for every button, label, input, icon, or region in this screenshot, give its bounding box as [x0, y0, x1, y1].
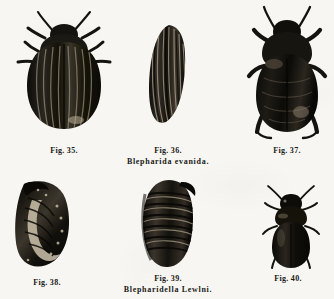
caption-fig-36: Fig. 36. — [128, 146, 208, 157]
tarsi-group — [257, 132, 317, 138]
caption-fig-35: Fig. 35. — [14, 146, 114, 157]
adult-beetle-dorsal-illustration — [14, 4, 114, 136]
larva-illustration — [10, 176, 88, 272]
adult-beetle-ventral-illustration — [244, 2, 330, 142]
illustration-plate: Fig. 35. — [0, 0, 334, 299]
pupa-illustration — [133, 176, 205, 272]
pronotum-highlight — [278, 214, 288, 219]
figure-fig-36 — [138, 22, 198, 130]
caption-fig-39: Fig. 39. — [128, 274, 208, 285]
caption-fig-40: Fig. 40. — [248, 274, 328, 285]
compound-eye — [283, 199, 286, 202]
figure-fig-40 — [258, 180, 324, 272]
thorax-highlight — [265, 59, 283, 69]
caption-fig-37: Fig. 37. — [247, 146, 327, 157]
beetle-elytron-illustration — [138, 22, 198, 130]
figure-fig-37 — [244, 2, 330, 142]
caption-fig-38: Fig. 38. — [7, 278, 87, 289]
small-beetle-illustration — [258, 180, 324, 272]
figure-fig-35 — [14, 4, 114, 136]
elytra-apex-highlight — [68, 116, 84, 124]
caption-species-bottom: Blepharidella Lewlni. — [98, 285, 238, 296]
caption-species-top: Blepharida evanida. — [98, 157, 238, 168]
figure-fig-39 — [133, 176, 205, 272]
figure-fig-38 — [10, 176, 88, 272]
abdomen-highlight — [293, 106, 309, 118]
elytra-highlight — [277, 229, 285, 247]
